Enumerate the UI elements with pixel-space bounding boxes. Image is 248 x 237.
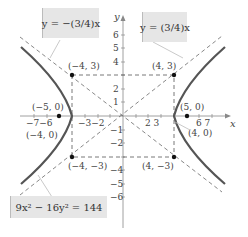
point-label-neg4-3: (−4, 3) (68, 61, 100, 71)
x-tick-label-2-3: 2 3 (145, 118, 159, 128)
y-tick-neg1: −1 (110, 125, 123, 135)
point-5-0 (185, 114, 189, 118)
point-label-4-neg3: (4, −3) (142, 161, 174, 171)
asymptote-neg-label: y = −(3/4)x (42, 18, 100, 29)
point-neg5-0 (57, 114, 61, 118)
y-tick-5: 5 (113, 43, 119, 53)
asymptote-pos-label: y = (3/4)x (140, 22, 190, 33)
callout-line-left (50, 40, 60, 58)
x-axis-label: x (230, 119, 236, 129)
y-tick-6: 6 (113, 30, 119, 40)
y-tick-2: 2 (113, 84, 119, 94)
y-tick-4: 4 (113, 57, 119, 67)
asymptote-pos-callout: y = (3/4)x (142, 12, 187, 42)
y-tick-neg6: −6 (110, 192, 123, 202)
left-branch (21, 47, 72, 184)
x-tick-label-6-7: 6 7 (196, 118, 210, 128)
point-label-neg4-neg3: (−4, −3) (68, 161, 107, 171)
x-tick-label-neg7-neg6: −7−6 (26, 118, 53, 128)
point-4-neg3 (172, 155, 176, 159)
callout-line-right (153, 42, 183, 58)
point-label-4-0: (4, 0) (188, 128, 212, 138)
y-tick-neg5: −5 (110, 179, 123, 189)
asymptote-neg-callout: y = −(3/4)x (42, 8, 99, 38)
point-neg4-neg3 (70, 155, 74, 159)
equation-label: 9x² − 16y² = 144 (16, 202, 103, 213)
point-4-3 (172, 73, 176, 77)
equation-callout: 9x² − 16y² = 144 (10, 196, 107, 218)
point-label-neg4-0: (−4, 0) (26, 130, 58, 140)
y-axis-arrow-icon (121, 15, 126, 21)
point-label-neg5-0: (−5, 0) (32, 102, 64, 112)
y-axis-label: y (114, 12, 120, 22)
hyperbola-diagram: y = −(3/4)x y = (3/4)x 9x² − 16y² = 144 … (0, 0, 248, 237)
callout-line-equation (38, 175, 52, 197)
point-label-4-3: (4, 3) (152, 61, 176, 71)
y-tick-1: 1 (113, 97, 119, 107)
y-tick-neg4: −4 (110, 165, 123, 175)
x-tick-label-neg3-neg2: −3−2 (78, 118, 105, 128)
point-label-5-0: (5, 0) (180, 102, 204, 112)
y-tick-neg2: −2 (110, 138, 123, 148)
point-neg4-3 (70, 73, 74, 77)
